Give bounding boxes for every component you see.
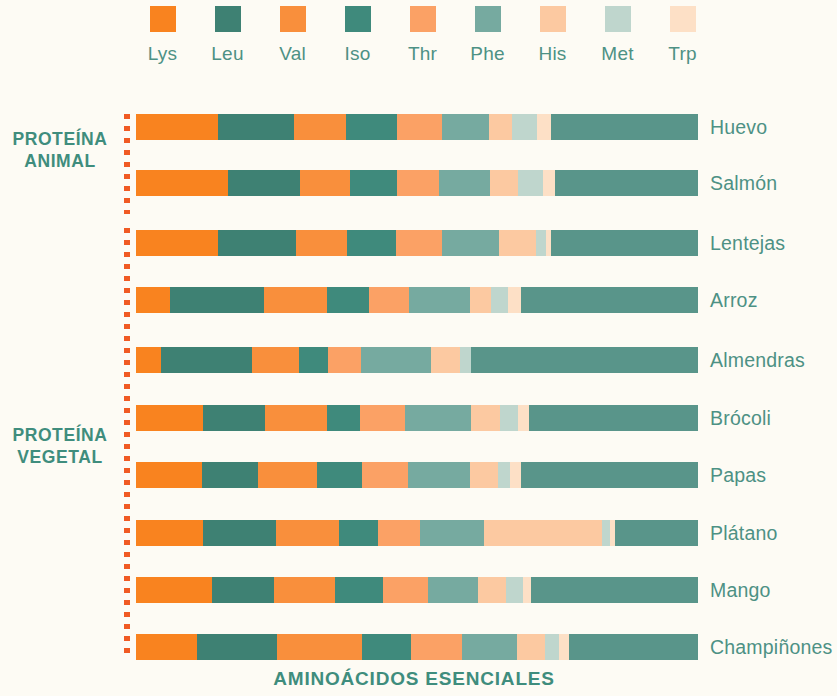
bar-segment-thr[interactable] [362, 462, 408, 488]
bar-segment-trp[interactable] [523, 577, 531, 603]
bar-segment-met[interactable] [498, 462, 510, 488]
bar-segment-thr[interactable] [397, 114, 442, 140]
bar-segment-lys[interactable] [136, 347, 161, 373]
bar-segment-iso[interactable] [327, 405, 360, 431]
bar-segment-val[interactable] [252, 347, 299, 373]
bar-segment-his[interactable] [431, 347, 460, 373]
bar-segment-lys[interactable] [136, 577, 212, 603]
bar-segment-iso[interactable] [350, 170, 397, 196]
bar-segment-resto[interactable] [521, 462, 697, 488]
bar-segment-met[interactable] [500, 405, 519, 431]
bar-segment-thr[interactable] [383, 577, 428, 603]
bar-segment-his[interactable] [517, 634, 545, 660]
bar-segment-resto[interactable] [551, 114, 698, 140]
bar-segment-phe[interactable] [409, 287, 470, 313]
bar-segment-lys[interactable] [136, 405, 203, 431]
bar-segment-phe[interactable] [405, 405, 472, 431]
bar-segment-iso[interactable] [299, 347, 328, 373]
bar-segment-iso[interactable] [327, 287, 370, 313]
legend-item-leu[interactable]: Leu [195, 6, 260, 65]
bar-segment-lys[interactable] [136, 114, 218, 140]
bar-segment-met[interactable] [602, 520, 609, 546]
bar-segment-trp[interactable] [518, 405, 529, 431]
legend-item-lys[interactable]: Lys [130, 6, 195, 65]
bar-segment-leu[interactable] [197, 634, 277, 660]
bar-segment-resto[interactable] [521, 287, 697, 313]
bar-segment-his[interactable] [489, 114, 511, 140]
legend-item-his[interactable]: His [520, 6, 585, 65]
bar-segment-val[interactable] [276, 520, 339, 546]
bar-segment-met[interactable] [536, 230, 546, 256]
bar-segment-val[interactable] [265, 405, 327, 431]
bar-segment-his[interactable] [470, 462, 498, 488]
bar-segment-trp[interactable] [510, 462, 521, 488]
legend-item-val[interactable]: Val [260, 6, 325, 65]
bar-segment-lys[interactable] [136, 520, 203, 546]
bar-segment-val[interactable] [277, 634, 362, 660]
bar-segment-met[interactable] [512, 114, 537, 140]
bar-segment-phe[interactable] [462, 634, 517, 660]
bar-segment-iso[interactable] [317, 462, 362, 488]
bar-segment-resto[interactable] [551, 230, 698, 256]
bar-segment-val[interactable] [264, 287, 327, 313]
bar-segment-trp[interactable] [508, 287, 521, 313]
bar-segment-val[interactable] [294, 114, 346, 140]
bar-segment-leu[interactable] [212, 577, 274, 603]
bar-segment-thr[interactable] [397, 170, 439, 196]
bar-segment-leu[interactable] [170, 287, 264, 313]
bar-segment-resto[interactable] [569, 634, 698, 660]
bar-segment-his[interactable] [484, 520, 602, 546]
bar-segment-leu[interactable] [203, 405, 265, 431]
bar-segment-val[interactable] [296, 230, 347, 256]
legend-item-iso[interactable]: Iso [325, 6, 390, 65]
bar-segment-met[interactable] [506, 577, 523, 603]
bar-segment-his[interactable] [471, 405, 499, 431]
bar-segment-met[interactable] [545, 634, 559, 660]
legend-item-thr[interactable]: Thr [390, 6, 455, 65]
legend-item-trp[interactable]: Trp [650, 6, 715, 65]
bar-segment-his[interactable] [478, 577, 506, 603]
bar-segment-leu[interactable] [161, 347, 252, 373]
bar-segment-phe[interactable] [361, 347, 431, 373]
bar-segment-thr[interactable] [360, 405, 405, 431]
bar-segment-val[interactable] [274, 577, 336, 603]
bar-segment-phe[interactable] [442, 230, 499, 256]
bar-segment-phe[interactable] [408, 462, 470, 488]
bar-segment-thr[interactable] [411, 634, 462, 660]
bar-segment-met[interactable] [518, 170, 543, 196]
bar-segment-resto[interactable] [615, 520, 698, 546]
bar-segment-his[interactable] [470, 287, 491, 313]
bar-segment-leu[interactable] [202, 462, 258, 488]
legend-item-met[interactable]: Met [585, 6, 650, 65]
bar-segment-thr[interactable] [369, 287, 409, 313]
bar-segment-lys[interactable] [136, 230, 218, 256]
bar-segment-trp[interactable] [559, 634, 569, 660]
bar-segment-trp[interactable] [543, 170, 555, 196]
bar-segment-leu[interactable] [218, 114, 294, 140]
bar-segment-phe[interactable] [439, 170, 490, 196]
legend-item-phe[interactable]: Phe [455, 6, 520, 65]
bar-segment-lys[interactable] [136, 287, 170, 313]
bar-segment-trp[interactable] [537, 114, 551, 140]
bar-segment-leu[interactable] [218, 230, 296, 256]
bar-segment-thr[interactable] [378, 520, 421, 546]
bar-segment-thr[interactable] [328, 347, 361, 373]
bar-segment-phe[interactable] [442, 114, 489, 140]
bar-segment-resto[interactable] [529, 405, 698, 431]
bar-segment-phe[interactable] [428, 577, 479, 603]
bar-segment-val[interactable] [258, 462, 317, 488]
bar-segment-leu[interactable] [203, 520, 276, 546]
bar-segment-thr[interactable] [396, 230, 442, 256]
bar-segment-resto[interactable] [471, 347, 697, 373]
bar-segment-phe[interactable] [420, 520, 484, 546]
bar-segment-iso[interactable] [362, 634, 411, 660]
bar-segment-lys[interactable] [136, 634, 197, 660]
bar-segment-iso[interactable] [339, 520, 378, 546]
bar-segment-val[interactable] [300, 170, 350, 196]
bar-segment-iso[interactable] [335, 577, 382, 603]
bar-segment-iso[interactable] [346, 114, 398, 140]
bar-segment-his[interactable] [490, 170, 518, 196]
bar-segment-met[interactable] [491, 287, 508, 313]
bar-segment-lys[interactable] [136, 170, 228, 196]
bar-segment-his[interactable] [499, 230, 536, 256]
